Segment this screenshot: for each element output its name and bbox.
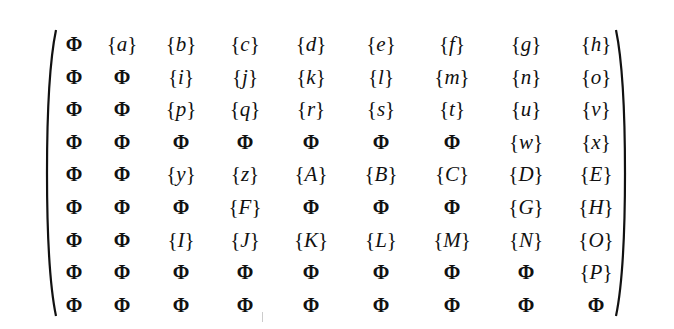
matrix-cell: {I} [167,229,194,250]
matrix-cell: Φ [303,132,320,152]
artifact-mark [262,312,263,322]
matrix-cell: Φ [114,262,131,282]
matrix-cell: Φ [237,262,254,282]
matrix-cell: Φ [114,164,131,184]
matrix-cell: Φ [303,262,320,282]
matrix-cell: {u} [511,99,542,120]
matrix-cell: {m} [434,66,469,87]
matrix-cell: Φ [444,295,461,315]
matrix-cell: Φ [114,230,131,250]
matrix-cell: {r} [297,99,325,120]
matrix-cell: {a} [107,34,138,55]
matrix-cell: {y} [166,164,196,185]
matrix-cell: Φ [173,262,190,282]
matrix-cell: {q} [230,99,261,120]
left-parenthesis [40,28,60,318]
matrix-cell: Φ [66,262,83,282]
matrix-cell: Φ [444,132,461,152]
matrix-cell: {M} [433,229,471,250]
matrix-cell: Φ [444,197,461,217]
matrix-cell: {A} [294,164,327,185]
matrix-cell: Φ [237,295,254,315]
matrix-cell: Φ [114,67,131,87]
matrix-cell: Φ [173,295,190,315]
matrix-cell: {o} [581,66,612,87]
matrix-cell: {v} [581,99,611,120]
matrix-cell: Φ [518,295,535,315]
matrix-cell: {j} [232,66,258,87]
matrix-cell: {w} [509,131,543,152]
matrix-cell: Φ [373,262,390,282]
matrix-cell: Φ [66,197,83,217]
matrix-cell: Φ [114,99,131,119]
matrix-cell: {H} [578,197,613,218]
matrix-cell: {k} [296,66,326,87]
matrix-cell: {z} [231,164,259,185]
matrix-cell: {c} [230,34,260,55]
matrix-cell: Φ [66,295,83,315]
matrix-cell: Φ [66,67,83,87]
matrix-cell: {C} [435,164,469,185]
matrix-cell: Φ [173,197,190,217]
matrix-cell: {x} [581,131,611,152]
matrix-cell: {i} [168,66,194,87]
matrix-cell: {p} [166,99,197,120]
matrix-cell: {L} [365,229,397,250]
matrix-cell: {B} [364,164,397,185]
matrix-cell: {f} [439,34,465,55]
matrix-cell: {D} [508,164,543,185]
matrix-cell: {K} [294,229,328,250]
matrix-cell: Φ [173,132,190,152]
matrix-cell: {h} [581,34,612,55]
matrix-cell: Φ [114,295,131,315]
matrix-cell: {E} [579,164,612,185]
matrix-cell: Φ [303,197,320,217]
matrix-cell: Φ [518,262,535,282]
matrix-cell: {t} [439,99,465,120]
matrix-cell: Φ [66,132,83,152]
matrix-cell: Φ [114,197,131,217]
matrix-cell: {s} [367,99,395,120]
matrix-cell: Φ [303,295,320,315]
matrix-cell: {G} [508,197,543,218]
matrix-cell: Φ [588,295,605,315]
matrix-cell: {b} [166,34,197,55]
matrix-cell: {O} [578,229,613,250]
matrix: Φ{a}{b}{c}{d}{e}{f}{g}{h}ΦΦ{i}{j}{k}{l}{… [0,0,674,329]
matrix-cell: Φ [373,197,390,217]
matrix-cell: Φ [66,164,83,184]
matrix-cell: {l} [368,66,394,87]
matrix-cell: {e} [366,34,396,55]
matrix-cell: {g} [511,34,542,55]
matrix-cell: Φ [237,132,254,152]
matrix-cell: Φ [444,262,461,282]
matrix-cell: {n} [511,66,542,87]
matrix-cell: Φ [66,34,83,54]
matrix-cell: {P} [579,262,612,283]
matrix-cell: {F} [228,197,261,218]
matrix-cell: {N} [509,229,543,250]
matrix-cell: Φ [373,132,390,152]
matrix-cell: Φ [373,295,390,315]
matrix-cell: Φ [66,99,83,119]
matrix-cell: Φ [66,230,83,250]
right-parenthesis [612,28,632,318]
matrix-cell: {d} [296,34,327,55]
matrix-cell: {J} [230,229,260,250]
matrix-cell: Φ [114,132,131,152]
